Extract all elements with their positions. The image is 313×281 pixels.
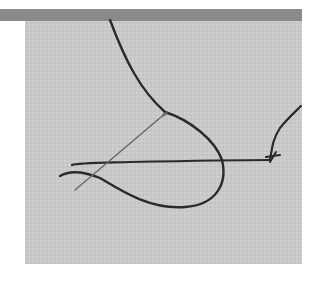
fabric-texture — [25, 21, 302, 264]
needle-and-thread-illustration — [0, 0, 313, 281]
